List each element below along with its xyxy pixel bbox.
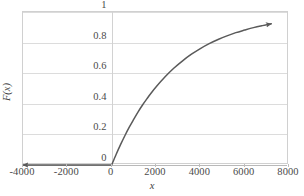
x-tick-mark <box>66 164 67 167</box>
x-tick-label: -4000 <box>10 166 35 177</box>
cdf-curve-path <box>112 24 272 165</box>
x-tick-label: 0 <box>108 166 113 177</box>
x-tick-mark <box>288 164 289 167</box>
x-axis-title: x <box>0 180 304 191</box>
y-axis-title: F(x) <box>1 62 12 122</box>
x-tick-label: 6000 <box>233 166 254 177</box>
x-tick-mark <box>155 164 156 167</box>
x-tick-label: -2000 <box>54 166 79 177</box>
y-tick-label: 1 <box>101 0 106 10</box>
plot-area <box>22 11 288 164</box>
x-tick-label: 8000 <box>277 166 298 177</box>
x-tick-mark <box>111 164 112 167</box>
x-tick-label: 2000 <box>144 166 165 177</box>
chart-figure: -4000-200002000400060008000 00.20.40.60.… <box>0 0 304 196</box>
y-tick-label: 0.8 <box>93 30 106 41</box>
y-tick-label: 0.6 <box>93 60 106 71</box>
x-tick-mark <box>22 164 23 167</box>
y-tick-label: 0 <box>101 152 106 163</box>
y-tick-label: 0.4 <box>93 91 106 102</box>
x-tick-label: 4000 <box>189 166 210 177</box>
y-tick-label: 0.2 <box>93 121 106 132</box>
x-tick-mark <box>199 164 200 167</box>
x-tick-mark <box>244 164 245 167</box>
curve-layer <box>23 12 289 165</box>
